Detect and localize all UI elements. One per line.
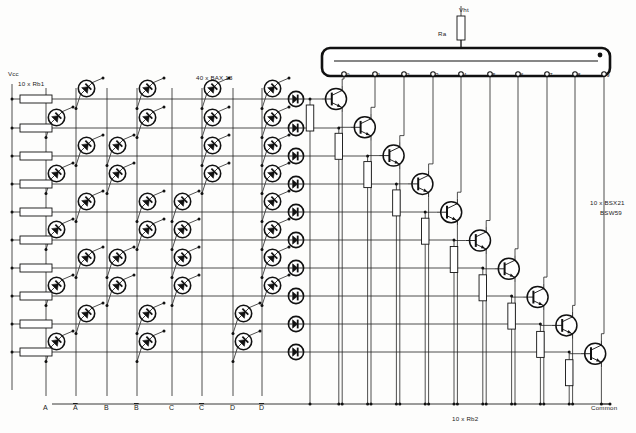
cathode-label-8: 8 [578, 72, 581, 78]
input-label-a: A [43, 404, 48, 411]
npn-transistor [408, 170, 433, 197]
cathode-label-7: 7 [550, 72, 553, 78]
matrix-diode [48, 333, 64, 349]
matrix-diode [109, 249, 125, 265]
input-label-b-bar: B [134, 404, 139, 411]
resistor [457, 16, 465, 40]
resistor [20, 236, 52, 244]
matrix-diode [264, 193, 280, 209]
npn-transistor [437, 199, 462, 226]
matrix-diode [204, 109, 220, 125]
npn-transistor [322, 86, 347, 113]
cathode-label-9: 9 [607, 72, 610, 78]
matrix-diode [264, 165, 280, 181]
matrix-diode [174, 277, 190, 293]
cathode-label-2: 2 [407, 72, 410, 78]
matrix-diode [109, 277, 125, 293]
steering-diode [288, 316, 303, 331]
resistor [20, 95, 52, 103]
npn-transistor [494, 255, 519, 282]
resistor [20, 180, 52, 188]
circuit-svg [0, 0, 636, 433]
resistor [20, 320, 52, 328]
npn-transistor [552, 312, 577, 339]
matrix-diode [78, 305, 94, 321]
matrix-diode [174, 221, 190, 237]
resistor [393, 190, 401, 216]
ra-label: Ra [438, 30, 446, 37]
cathode-label-5: 5 [493, 72, 496, 78]
npn-transistor [379, 142, 404, 169]
input-label-d: D [230, 404, 235, 411]
steering-diode [288, 204, 303, 219]
matrix-diode [204, 137, 220, 153]
matrix-diode [48, 109, 64, 125]
cathode-label-6: 6 [521, 72, 524, 78]
npn-transistor [350, 114, 375, 141]
matrix-diode [204, 165, 220, 181]
matrix-diode [235, 305, 251, 321]
input-label-d-bar: D [259, 404, 264, 411]
resistor [565, 360, 573, 386]
matrix-diode [139, 333, 155, 349]
input-label-c: C [169, 404, 174, 411]
matrix-diode [264, 80, 280, 96]
diode-matrix-label: 40 x BAX 13 [196, 74, 233, 81]
matrix-diode [78, 137, 94, 153]
matrix-diode [139, 305, 155, 321]
matrix-diode [264, 137, 280, 153]
matrix-diode [235, 333, 251, 349]
cathode-label-3: 3 [436, 72, 439, 78]
matrix-diode [264, 109, 280, 125]
steering-diode [288, 344, 303, 359]
resistor [20, 292, 52, 300]
matrix-diode [139, 80, 155, 96]
input-label-a-bar: A [73, 404, 78, 411]
transistor-type-label-1: 10 x BSX21 [590, 199, 625, 206]
cathode-label-0: 0 [347, 72, 350, 78]
resistor [450, 247, 458, 273]
cathode-label-4: 4 [464, 72, 467, 78]
resistor [20, 124, 52, 132]
steering-diode [288, 120, 303, 135]
resistor [20, 264, 52, 272]
resistor [537, 331, 545, 357]
transistor-type-label-2: BSW59 [600, 209, 622, 216]
steering-diode [288, 232, 303, 247]
vht-label: Vht [459, 6, 469, 13]
matrix-diode [48, 277, 64, 293]
matrix-diode [48, 165, 64, 181]
matrix-diode [139, 221, 155, 237]
resistor [20, 208, 52, 216]
npn-transistor [466, 227, 491, 254]
resistor [20, 348, 52, 356]
resistor [479, 275, 487, 301]
resistor [20, 152, 52, 160]
rb2-label: 10 x Rb2 [452, 415, 478, 422]
matrix-diode [204, 80, 220, 96]
matrix-diode [139, 193, 155, 209]
input-label-b: B [104, 404, 109, 411]
schematic-canvas: Vcc 10 x Rb1 40 x BAX 13 Ra Vht 10 x BSX… [0, 0, 636, 433]
npn-transistor [581, 340, 606, 367]
steering-diode [288, 91, 303, 106]
matrix-diode [264, 221, 280, 237]
matrix-diode [174, 193, 190, 209]
matrix-diode [109, 137, 125, 153]
matrix-diode [78, 80, 94, 96]
steering-diode [288, 148, 303, 163]
cathode-label-1: 1 [378, 72, 381, 78]
matrix-diode [78, 249, 94, 265]
resistor [306, 105, 314, 131]
matrix-diode [109, 165, 125, 181]
steering-diode [288, 260, 303, 275]
matrix-diode [264, 249, 280, 265]
matrix-diode [139, 109, 155, 125]
steering-diode [288, 288, 303, 303]
resistor [364, 162, 372, 188]
resistor [335, 133, 343, 159]
resistor [421, 218, 429, 244]
common-label: Common [591, 404, 617, 411]
input-label-c-bar: C [199, 404, 204, 411]
vcc-label: Vcc [8, 70, 19, 77]
